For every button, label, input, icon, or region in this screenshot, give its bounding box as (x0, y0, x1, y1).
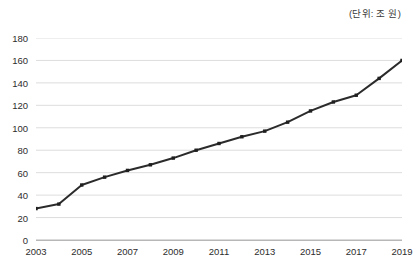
data-point-marker: 2007: 62 (126, 169, 129, 172)
y-axis-tick-label: 100 (0, 122, 32, 133)
data-point-marker: 2008: 67 (149, 163, 152, 166)
data-point-marker: 2013: 97 (263, 129, 266, 132)
data-point-marker: 2003: 28 (36, 207, 38, 210)
series-line (36, 60, 402, 208)
y-axis-tick-label: 120 (0, 100, 32, 111)
data-point-marker: 2006: 56 (103, 175, 106, 178)
data-point-marker: 2012: 92 (240, 135, 243, 138)
data-point-marker: 2017: 129 (355, 94, 358, 97)
data-point-marker: 2004: 32 (57, 202, 60, 205)
data-point-marker: 2014: 105 (286, 120, 289, 123)
y-axis-tick-label: 140 (0, 77, 32, 88)
unit-label: (단위: 조 원) (349, 6, 401, 20)
x-axis-tick-label: 2009 (163, 246, 184, 257)
y-axis-tick-label: 20 (0, 212, 32, 223)
data-series-line: 2003: 282004: 322005: 492006: 562007: 62… (36, 38, 402, 240)
x-axis-tick-label: 2011 (209, 246, 229, 257)
data-point-marker: 2018: 144 (377, 77, 380, 80)
data-point-marker: 2015: 115 (309, 109, 312, 112)
x-axis-tick-label: 2019 (391, 246, 412, 257)
data-point-marker: 2009: 73 (172, 156, 175, 159)
y-axis-tick-labels: 180160140120100806040200 (0, 0, 32, 277)
x-axis-tick-labels: 200320052007200920112013201520172019 (36, 246, 402, 266)
x-axis-tick-label: 2005 (71, 246, 92, 257)
data-point-marker: 2016: 123 (332, 100, 335, 103)
data-point-marker: 2019: 160 (400, 59, 402, 62)
x-axis-tick-label: 2013 (254, 246, 275, 257)
plot-area: 2003: 282004: 322005: 492006: 562007: 62… (36, 38, 402, 240)
y-axis-tick-label: 80 (0, 145, 32, 156)
y-axis-tick-label: 60 (0, 167, 32, 178)
data-point-marker: 2005: 49 (80, 183, 83, 186)
x-axis-tick-label: 2015 (300, 246, 321, 257)
y-axis-tick-label: 0 (0, 235, 32, 246)
data-point-marker: 2010: 80 (194, 149, 197, 152)
x-axis-line (36, 240, 402, 241)
x-axis-tick-label: 2007 (117, 246, 138, 257)
x-axis-tick-label: 2003 (25, 246, 46, 257)
x-axis-tick-label: 2017 (346, 246, 367, 257)
y-axis-tick-label: 180 (0, 33, 32, 44)
y-axis-tick-label: 160 (0, 55, 32, 66)
data-point-marker: 2011: 86 (217, 142, 220, 145)
y-axis-tick-label: 40 (0, 190, 32, 201)
